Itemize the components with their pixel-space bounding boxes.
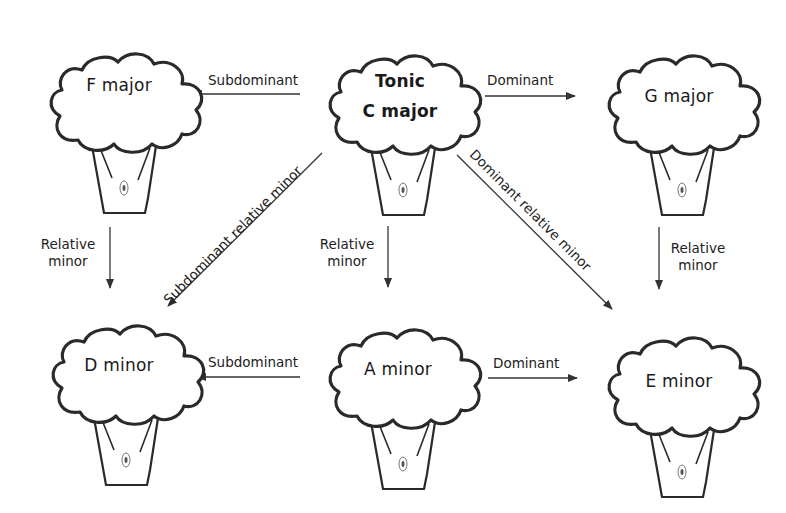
- edge-label-relative-minor-left: Relative minor: [36, 236, 100, 270]
- node-label: F major: [34, 74, 204, 96]
- tree-node-e-minor: E minor: [588, 312, 786, 513]
- edge-label-line: minor: [36, 253, 100, 270]
- edge-label-line: Relative: [666, 240, 730, 257]
- edge-label-line: minor: [666, 257, 730, 274]
- node-label: E minor: [594, 370, 764, 392]
- edge-label-subdominant-bottom: Subdominant: [208, 354, 298, 371]
- tree-icon: [588, 30, 786, 230]
- edge-label-dominant-top: Dominant: [487, 72, 553, 89]
- node-label: A minor: [313, 358, 483, 380]
- edge-label-subdominant-top: Subdominant: [208, 72, 298, 89]
- tree-node-a-minor: A minor: [309, 304, 509, 513]
- edge-label-line: minor: [315, 253, 379, 270]
- tree-icon: [588, 312, 786, 512]
- tree-icon: [309, 304, 509, 504]
- tree-node-f-major: F major: [30, 28, 230, 248]
- tree-node-g-major: G major: [588, 30, 786, 250]
- node-label-role: Tonic: [315, 70, 485, 92]
- tree-node-d-minor: D minor: [32, 300, 232, 513]
- edge-label-dominant-bottom: Dominant: [493, 355, 559, 372]
- node-label: G major: [594, 85, 764, 107]
- edge-label-relative-minor-center: Relative minor: [315, 236, 379, 270]
- tree-icon: [32, 300, 232, 500]
- edge-label-relative-minor-right: Relative minor: [666, 240, 730, 274]
- node-label-key: C major: [315, 100, 485, 122]
- tree-node-c-major: Tonic C major: [309, 30, 509, 250]
- edge-label-line: Relative: [36, 236, 100, 253]
- key-relationship-diagram: F major Tonic C major G major: [0, 0, 786, 513]
- tree-icon: [30, 28, 230, 228]
- edge-label-line: Relative: [315, 236, 379, 253]
- tree-icon: [309, 30, 509, 230]
- node-label: D minor: [34, 354, 204, 376]
